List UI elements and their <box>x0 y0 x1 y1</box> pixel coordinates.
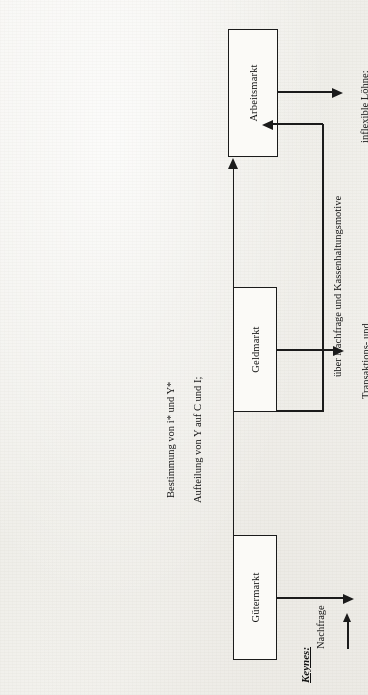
edge-geldmarkt-arbeitsmarkt-line <box>233 169 235 287</box>
output-arbeitsmarkt-line <box>278 92 338 94</box>
feedback-arrowhead <box>262 121 273 131</box>
center-note-line-2: Aufteilung von Y auf C und I; <box>191 377 205 503</box>
center-note-line-1: Bestimmung von i* und Y* <box>164 377 178 503</box>
output-arbeitsmarkt-line-1: inflexible Löhne; <box>358 70 368 143</box>
output-guetermarkt-arrow-glyph <box>327 615 368 649</box>
output-geldmarkt-labels: Transaktions- und Spekulationskasse <box>345 322 368 399</box>
node-guetermarkt[interactable]: Gütermarkt <box>233 535 277 660</box>
figure-title: Keynes: <box>299 647 311 683</box>
center-note: Bestimmung von i* und Y* Aufteilung von … <box>150 377 218 503</box>
output-geldmarkt-line <box>277 350 339 352</box>
edge-guetermarkt-geldmarkt-line <box>233 412 235 535</box>
node-arbeitsmarkt-label: Arbeitsmarkt <box>248 64 259 121</box>
diagram-stage: Keynes: Gütermarkt Geldmarkt Arbeitsmark… <box>0 0 368 695</box>
feedback-rise-right <box>268 124 323 126</box>
node-arbeitsmarkt[interactable]: Arbeitsmarkt <box>228 29 278 157</box>
output-geldmarkt-line-1: Transaktions- und <box>359 322 368 399</box>
edge-geldmarkt-arbeitsmarkt-arrowhead <box>228 158 238 169</box>
node-geldmarkt-label: Geldmarkt <box>250 326 261 372</box>
output-arbeitsmarkt-arrowhead <box>332 89 343 99</box>
feedback-drop-left <box>277 411 323 413</box>
output-geldmarkt-arrowhead <box>333 347 344 357</box>
node-geldmarkt[interactable]: Geldmarkt <box>233 287 277 412</box>
output-arbeitsmarkt-labels: inflexible Löhne; Bestimmung der Höhe de… <box>344 70 368 143</box>
node-guetermarkt-label: Gütermarkt <box>250 573 261 623</box>
output-guetermarkt-labels: Nachfrage Multiplikatoreffekte <box>300 564 368 649</box>
output-guetermarkt-line-1: Nachfrage <box>314 605 328 649</box>
feedback-horizontal-run <box>322 124 324 412</box>
